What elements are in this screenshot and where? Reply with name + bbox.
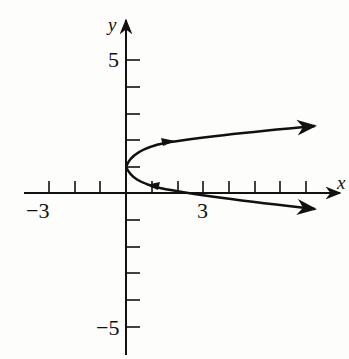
- x-tick-label-3: 3: [197, 198, 208, 224]
- y-tick-label-neg5: −5: [96, 315, 119, 341]
- y-axis-label: y: [108, 14, 116, 36]
- x-axis-label: x: [337, 172, 345, 194]
- chart-plot: [0, 0, 349, 359]
- curve-upper-branch: [126, 126, 315, 167]
- y-tick-label-5: 5: [108, 47, 119, 73]
- direction-arrow-lower: [146, 182, 160, 190]
- x-tick-label-neg3: −3: [26, 198, 49, 224]
